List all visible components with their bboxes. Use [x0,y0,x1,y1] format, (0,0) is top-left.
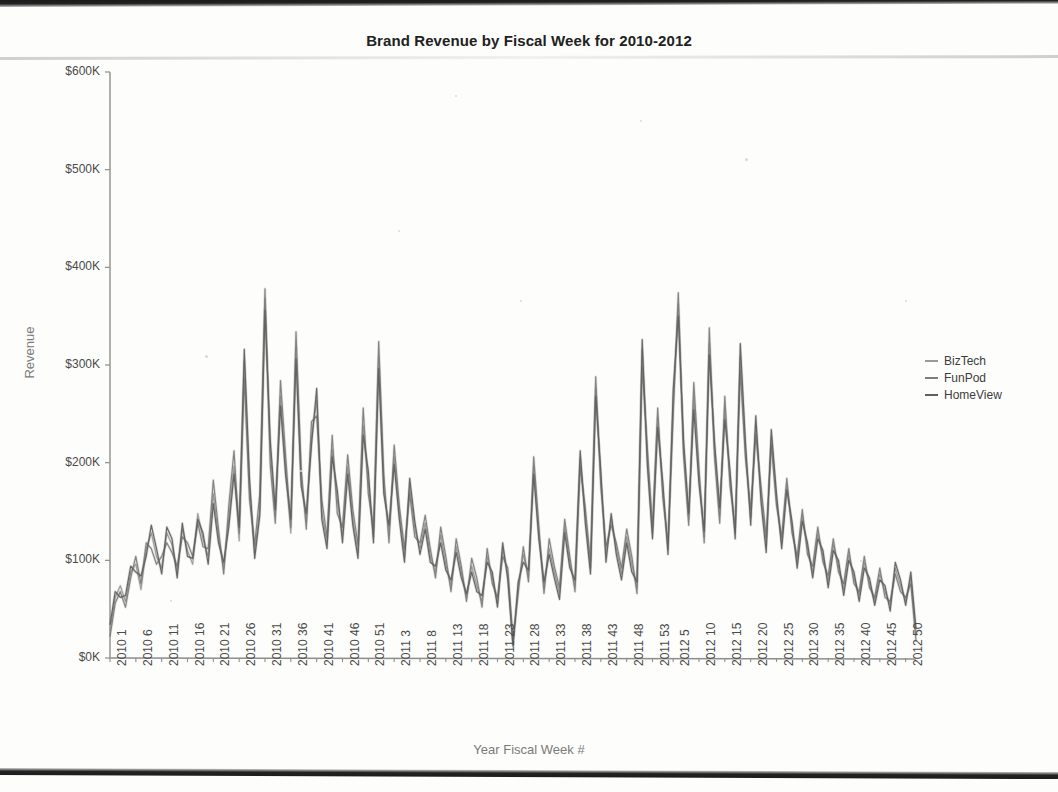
legend-swatch-icon [925,360,938,362]
x-axis-tick-label: 2010 31 [270,623,284,666]
y-axis-tick-label: $600K [34,64,100,78]
x-axis-tick-label: 2010 21 [218,623,232,666]
x-axis-tick-label: 2012 20 [756,623,770,666]
x-axis-tick-label: 2012 45 [885,623,899,666]
legend-swatch-icon [925,377,938,379]
series-line-halo-funpod [110,289,916,641]
x-axis-tick-label: 2011 23 [503,624,517,667]
chart-axes [110,72,916,659]
y-axis-tick-label: $500K [34,162,100,176]
x-axis-tick-label: 2010 51 [373,623,387,666]
y-axis-title: Revenue [22,298,37,408]
scan-speck [398,230,400,232]
line-chart-svg [0,0,1058,792]
x-axis-tick-label: 2012 50 [911,623,925,666]
series-line-funpod [110,289,916,641]
y-axis-tick-label: $400K [34,259,100,273]
x-axis-tick-label: 2010 11 [167,624,181,667]
x-axis-tick-label: 2011 48 [632,624,646,667]
x-axis-tick-label: 2011 28 [528,624,542,667]
x-axis-tick-label: 2012 10 [704,623,718,666]
chart-series-lines [110,289,916,647]
scan-speck [640,120,642,122]
x-axis-tick-label: 2010 26 [244,623,258,666]
y-axis-tick-label: $100K [34,552,100,566]
x-axis-tick-label: 2011 33 [554,624,568,667]
x-axis-tick-label: 2012 15 [730,623,744,666]
legend-item-homeview[interactable]: HomeView [925,386,1002,403]
x-axis-tick-label: 2012 35 [833,623,847,666]
x-axis-tick-label: 2010 36 [296,623,310,666]
scan-speck [520,300,522,302]
legend-item-label: HomeView [944,388,1002,402]
x-axis-tick-label: 2012 40 [859,623,873,666]
x-axis-tick-label: 2011 38 [580,624,594,667]
x-axis-tick-label: 2010 41 [322,623,336,666]
x-axis-tick-label: 2012 5 [678,629,692,666]
legend-item-biztech[interactable]: BizTech [925,352,1002,369]
x-axis-tick-label: 2011 8 [425,630,439,666]
scan-speck [905,300,907,302]
chart-plot-area [0,0,1058,792]
scan-speck [455,95,457,97]
scan-speck [860,560,862,562]
y-axis-tick-label: $0K [34,650,100,664]
x-axis-tick-label: 2012 30 [807,623,821,666]
scan-speck [170,600,172,602]
y-axis-ticks [105,72,110,658]
x-axis-tick-label: 2011 13 [451,624,465,667]
x-axis-tick-label: 2011 53 [658,624,672,667]
x-axis-tick-label: 2011 43 [606,624,620,667]
x-axis-title: Year Fiscal Week # [0,742,1058,757]
x-axis-tick-label: 2011 3 [399,630,413,666]
x-axis-tick-label: 2012 25 [782,623,796,666]
chart-legend: BizTechFunPodHomeView [925,352,1002,403]
scan-speck [205,355,208,358]
x-axis-tick-label: 2011 18 [477,624,491,667]
scan-speck [745,158,748,161]
scan-speck [300,470,302,472]
y-axis-tick-label: $300K [34,357,100,371]
legend-swatch-icon [925,394,938,396]
x-axis-tick-label: 2010 16 [193,623,207,666]
x-axis-tick-label: 2010 1 [115,629,129,666]
legend-item-funpod[interactable]: FunPod [925,369,1002,386]
y-axis-tick-label: $200K [34,455,100,469]
legend-item-label: BizTech [944,354,986,368]
x-axis-tick-label: 2010 6 [141,629,155,666]
x-axis-tick-label: 2010 46 [348,623,362,666]
legend-item-label: FunPod [944,371,986,385]
